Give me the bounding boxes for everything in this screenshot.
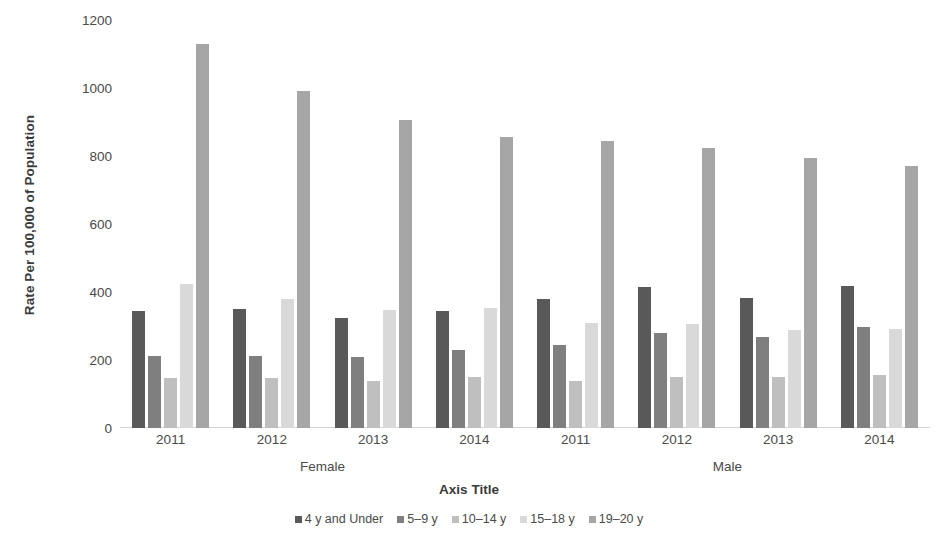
bar bbox=[857, 327, 870, 428]
bar bbox=[351, 357, 364, 428]
bar bbox=[233, 309, 246, 428]
bar bbox=[436, 311, 449, 428]
x-axis-tick-label: 2013 bbox=[358, 432, 388, 447]
bar bbox=[132, 311, 145, 428]
bar bbox=[804, 158, 817, 428]
x-axis-group-label: Male bbox=[713, 459, 742, 474]
bar-group bbox=[841, 20, 918, 428]
bar bbox=[399, 120, 412, 428]
legend-label: 5–9 y bbox=[407, 513, 438, 526]
y-axis-tick-label: 600 bbox=[50, 217, 112, 232]
x-axis-title: Axis Title bbox=[0, 482, 938, 497]
bar bbox=[889, 329, 902, 428]
bar bbox=[148, 356, 161, 428]
bar-group bbox=[233, 20, 310, 428]
bar-group bbox=[335, 20, 412, 428]
bar bbox=[180, 284, 193, 429]
legend-item: 10–14 y bbox=[452, 513, 506, 526]
x-axis-tick-label: 2014 bbox=[459, 432, 489, 447]
bar bbox=[281, 299, 294, 428]
bar bbox=[756, 337, 769, 428]
legend-item: 15–18 y bbox=[520, 513, 574, 526]
y-axis-tick-label: 800 bbox=[50, 149, 112, 164]
bar bbox=[638, 287, 651, 428]
y-axis-tick-label: 1200 bbox=[50, 13, 112, 28]
chart-legend: 4 y and Under5–9 y10–14 y15–18 y19–20 y bbox=[0, 513, 938, 526]
bar bbox=[772, 377, 785, 428]
legend-swatch-icon bbox=[397, 516, 404, 523]
bar bbox=[740, 298, 753, 428]
bar-group bbox=[436, 20, 513, 428]
bar bbox=[702, 148, 715, 428]
y-axis-title: Rate Per 100,000 of Population bbox=[18, 0, 40, 430]
y-axis-tick-label: 400 bbox=[50, 285, 112, 300]
legend-label: 10–14 y bbox=[462, 513, 506, 526]
legend-label: 19–20 y bbox=[599, 513, 643, 526]
y-axis-tick-label: 200 bbox=[50, 353, 112, 368]
x-axis-group-labels: FemaleMale bbox=[120, 459, 930, 481]
bar bbox=[670, 377, 683, 428]
legend-label: 15–18 y bbox=[530, 513, 574, 526]
bar bbox=[164, 378, 177, 428]
bar-chart: Rate Per 100,000 of Population 020040060… bbox=[0, 0, 938, 541]
legend-item: 19–20 y bbox=[589, 513, 643, 526]
bar bbox=[788, 330, 801, 428]
bar bbox=[335, 318, 348, 429]
x-axis-tick-label: 2011 bbox=[156, 432, 185, 447]
bar bbox=[196, 44, 209, 428]
bar-group bbox=[638, 20, 715, 428]
bar bbox=[585, 323, 598, 428]
plot-area bbox=[120, 20, 930, 428]
x-axis-tick-label: 2012 bbox=[662, 432, 692, 447]
x-axis-category-labels: 20112012201320142011201220132014 bbox=[120, 432, 930, 454]
bar bbox=[553, 345, 566, 428]
bar bbox=[383, 310, 396, 428]
bar bbox=[654, 333, 667, 428]
x-axis-group-label: Female bbox=[300, 459, 345, 474]
bar bbox=[905, 166, 918, 428]
bar bbox=[500, 137, 513, 428]
bar bbox=[686, 324, 699, 428]
x-axis-tick-label: 2012 bbox=[257, 432, 287, 447]
bar bbox=[601, 141, 614, 428]
bar-group bbox=[537, 20, 614, 428]
legend-item: 4 y and Under bbox=[295, 513, 384, 526]
bar bbox=[297, 91, 310, 428]
x-axis-tick-label: 2014 bbox=[864, 432, 894, 447]
y-axis-tick-label: 0 bbox=[50, 421, 112, 436]
bar bbox=[484, 308, 497, 428]
legend-label: 4 y and Under bbox=[305, 513, 384, 526]
y-axis-tick-label: 1000 bbox=[50, 81, 112, 96]
bar bbox=[367, 381, 380, 428]
bar-group bbox=[132, 20, 209, 428]
bar bbox=[468, 377, 481, 428]
legend-swatch-icon bbox=[520, 516, 527, 523]
legend-swatch-icon bbox=[452, 516, 459, 523]
bar bbox=[537, 299, 550, 428]
bar bbox=[569, 381, 582, 428]
x-axis-tick-label: 2013 bbox=[763, 432, 793, 447]
legend-swatch-icon bbox=[295, 516, 302, 523]
bar bbox=[265, 378, 278, 428]
legend-item: 5–9 y bbox=[397, 513, 438, 526]
legend-swatch-icon bbox=[589, 516, 596, 523]
x-axis-tick-label: 2011 bbox=[561, 432, 590, 447]
bar bbox=[249, 356, 262, 428]
y-axis-tick-labels: 020040060080010001200 bbox=[50, 0, 112, 541]
bar bbox=[873, 375, 886, 428]
bar-group bbox=[740, 20, 817, 428]
bar bbox=[841, 286, 854, 428]
bar bbox=[452, 350, 465, 428]
